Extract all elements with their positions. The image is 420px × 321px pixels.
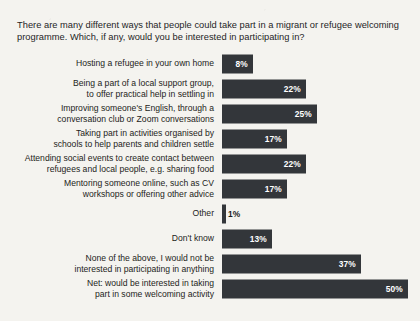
bar-category-label: Hosting a refugee in your own home: [0, 58, 218, 68]
bar-value-label: 8%: [235, 59, 248, 69]
bar-track: 1%: [222, 204, 226, 223]
bar: 50%: [222, 279, 408, 298]
bar: 17%: [222, 129, 287, 148]
bar-value-label: 13%: [250, 234, 267, 244]
bar: 22%: [222, 79, 306, 98]
bar-track: 50%: [222, 279, 408, 298]
bar-row: Attending social events to create contac…: [0, 151, 420, 176]
bar-value-label: 25%: [295, 109, 312, 119]
bar-category-label: Other: [0, 208, 218, 218]
bar-track: 17%: [222, 129, 287, 148]
bar-value-label: 17%: [265, 134, 282, 144]
bar-category-label: Improving someone's English, through aco…: [0, 103, 218, 123]
bar: 13%: [222, 229, 272, 248]
bar: 17%: [222, 179, 287, 198]
bar-category-label: None of the above, I would not beinteres…: [0, 253, 218, 273]
bar-category-label: Net: would be interested in takingpart i…: [0, 278, 218, 298]
bar-value-label: 22%: [284, 159, 301, 169]
bar-category-label: Taking part in activities organised bysc…: [0, 128, 218, 148]
bar-category-label-line2: to offer practical help in settling in: [87, 89, 214, 99]
bar-category-label: Attending social events to create contac…: [0, 153, 218, 173]
bar-row: None of the above, I would not beinteres…: [0, 251, 420, 276]
bar-category-label: Mentoring someone online, such as CVwork…: [0, 178, 218, 198]
bar-category-label: Being a part of a local support group,to…: [0, 78, 218, 98]
bar: 25%: [222, 104, 317, 123]
bar-row: Other1%: [0, 201, 420, 226]
bar-value-label: 1%: [228, 209, 241, 219]
bar-category-label-line2: interested in participating in anything: [75, 264, 215, 274]
bar-row: Hosting a refugee in your own home8%: [0, 51, 420, 76]
bar-value-label: 22%: [284, 84, 301, 94]
bar: 37%: [222, 254, 361, 273]
bar-category-label-line2: refugees and local people, e.g. sharing …: [47, 164, 214, 174]
survey-question-text: There are many different ways that peopl…: [17, 19, 409, 44]
bar-value-label: 50%: [386, 284, 403, 294]
bar-category-label-line2: schools to help parents and children set…: [53, 139, 214, 149]
bar-value-label: 17%: [265, 184, 282, 194]
bar: 8%: [222, 54, 253, 73]
bar-value-label: 37%: [339, 259, 356, 269]
bar-category-label-line2: workshops or offering other advice: [83, 189, 214, 199]
bar-track: 37%: [222, 254, 361, 273]
bar-track: 8%: [222, 54, 253, 73]
bar-row: Taking part in activities organised bysc…: [0, 126, 420, 151]
bar-row: Improving someone's English, through aco…: [0, 101, 420, 126]
bar-category-label-line2: conversation club or Zoom conversations: [57, 114, 214, 124]
bar-row: Being a part of a local support group,to…: [0, 76, 420, 101]
bar-track: 25%: [222, 104, 317, 123]
bar-row: Mentoring someone online, such as CVwork…: [0, 176, 420, 201]
bar-track: 22%: [222, 154, 306, 173]
bar-row: Net: would be interested in takingpart i…: [0, 276, 420, 301]
bar-track: 17%: [222, 179, 287, 198]
bar: 1%: [222, 204, 226, 223]
bar-category-label-line2: part in some welcoming activity: [95, 289, 214, 299]
bar: 22%: [222, 154, 306, 173]
bar-row: Don't know13%: [0, 226, 420, 251]
top-cutoff-artifact: [0, 0, 420, 9]
bar-track: 13%: [222, 229, 272, 248]
bar-category-label: Don't know: [0, 233, 218, 243]
bar-track: 22%: [222, 79, 306, 98]
horizontal-bar-chart: Hosting a refugee in your own home8%Bein…: [0, 51, 420, 301]
